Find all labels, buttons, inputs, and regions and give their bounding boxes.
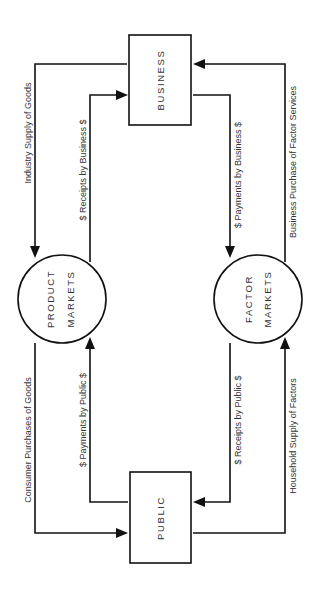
label-industry-supply: Industry Supply of Goods [23,82,33,184]
node-public: PUBLIC [130,472,191,563]
node-business: BUSINESS [129,35,191,125]
arrowhead-left-icon [193,497,205,507]
label-receipts-by-public: $ Receipts by Public $ [233,375,243,464]
edge-payments-by-public [90,345,128,502]
edge-payments-by-business [193,95,230,250]
arrowhead-right-icon [116,90,128,100]
label-payments-by-business: $ Payments by Business $ [233,122,243,228]
node-factor-markets: FACTOR MARKETS [214,255,302,343]
label-consumer-purchases: Consumer Purchases of Goods [23,377,33,503]
label-payments-by-public: $ Payments by Public $ [78,373,88,467]
circular-flow-diagram: BUSINESS PUBLIC PRODUCT MARKETS FACTOR M… [0,0,318,596]
public-label: PUBLIC [155,496,166,540]
label-household-supply: Household Supply of Factors [288,378,298,494]
arrowhead-down-icon [30,246,40,258]
arrowhead-down-icon [225,246,235,258]
factor-markets-label-line2: MARKETS [262,270,273,327]
label-receipts-by-business: $ Receipts by Business $ [78,119,88,220]
arrowhead-right-icon [116,528,128,538]
arrowhead-up-icon [85,337,95,349]
business-label: BUSINESS [155,50,166,111]
edge-receipts-by-business [90,95,120,262]
arrowhead-left-icon [193,59,205,69]
arrowhead-up-icon [280,337,290,349]
product-markets-label-line1: PRODUCT [45,270,56,328]
product-markets-label-line2: MARKETS [65,270,76,327]
label-business-purchase: Business Purchase of Factor Services [288,85,298,238]
node-product-markets: PRODUCT MARKETS [18,255,106,343]
factor-markets-label-line1: FACTOR [243,275,254,323]
edge-receipts-by-public [200,343,230,502]
